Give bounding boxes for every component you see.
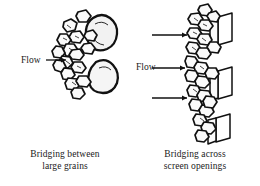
panel-bridging-between-large-grains: Flow Bridging between large grains bbox=[0, 0, 130, 186]
caption-left-line2: large grains bbox=[0, 160, 130, 172]
caption-right: Bridging across screen openings bbox=[130, 148, 260, 172]
caption-left: Bridging between large grains bbox=[0, 148, 130, 172]
flow-arrow-right-2 bbox=[152, 65, 185, 70]
panel-bridging-across-screen-openings: Flow Bridging across screen openings bbox=[130, 0, 260, 186]
flow-arrow-right-3 bbox=[152, 95, 187, 100]
flow-arrow-group-right bbox=[152, 32, 187, 100]
caption-right-line1: Bridging across bbox=[164, 149, 225, 159]
bridging-figure: Flow Bridging between large grains bbox=[0, 0, 260, 186]
flow-arrow-right-1 bbox=[152, 32, 187, 37]
left-figure-artwork bbox=[0, 0, 130, 145]
caption-left-line1: Bridging between bbox=[30, 149, 99, 159]
flow-label-left: Flow bbox=[21, 55, 41, 66]
large-grain-lower bbox=[88, 60, 118, 93]
flow-label-right: Flow bbox=[136, 62, 156, 73]
caption-right-line2: screen openings bbox=[130, 160, 260, 172]
